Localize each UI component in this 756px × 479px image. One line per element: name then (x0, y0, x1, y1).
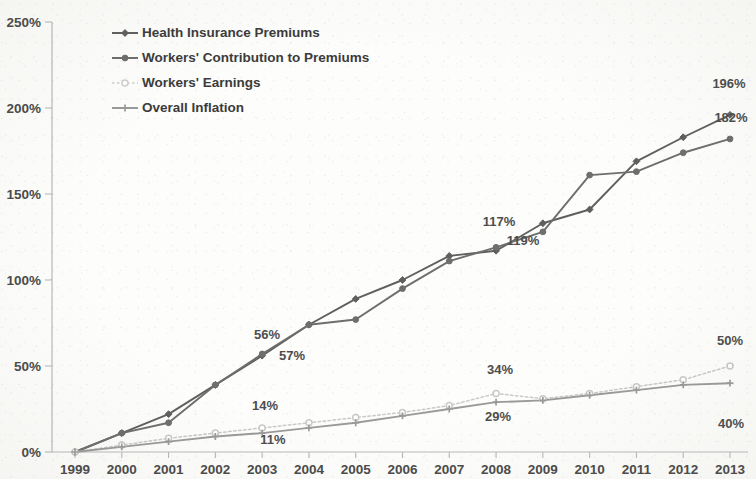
data-point-marker (446, 258, 452, 264)
data-point-marker (306, 322, 312, 328)
x-tick-label: 2001 (154, 462, 185, 477)
data-point-label: 34% (487, 362, 513, 377)
data-point-marker (122, 30, 129, 37)
data-point-marker (634, 169, 640, 175)
data-point-label: 50% (717, 333, 743, 348)
chart-container: 0%50%100%150%200%250% 199920002001200220… (0, 0, 756, 479)
data-point-marker (259, 351, 265, 357)
series-markers (72, 136, 733, 455)
x-tick-label: 2002 (200, 462, 230, 477)
y-tick-label: 250% (6, 15, 41, 30)
data-point-marker (727, 136, 733, 142)
x-tick-label: 2011 (622, 462, 652, 477)
data-point-marker (493, 244, 499, 250)
markers-layer (72, 111, 734, 455)
x-axis-tick-labels: 1999200020012002200320042005200620072008… (60, 462, 746, 477)
x-tick-label: 2006 (387, 462, 418, 477)
data-point-marker (680, 150, 686, 156)
data-point-marker (727, 363, 733, 369)
legend-item[interactable]: Overall Inflation (112, 100, 244, 115)
y-tick-label: 150% (6, 187, 41, 202)
legend-item[interactable]: Workers' Earnings (112, 75, 261, 90)
x-tick-label: 2007 (434, 462, 464, 477)
y-tick-label: 100% (6, 273, 41, 288)
data-point-marker (119, 430, 125, 436)
data-point-marker (399, 277, 406, 284)
x-tick-label: 2004 (294, 462, 325, 477)
data-point-marker (166, 420, 172, 426)
x-tick-label: 2010 (575, 462, 605, 477)
data-point-label: 56% (254, 327, 280, 342)
series-markers (72, 111, 734, 455)
data-point-label: 196% (712, 76, 746, 91)
y-axis-ticks (45, 22, 52, 452)
data-point-marker (122, 105, 129, 112)
x-tick-label: 2012 (668, 462, 698, 477)
data-point-marker (680, 134, 687, 141)
data-point-marker (540, 229, 546, 235)
data-point-marker (122, 80, 128, 86)
legend-item[interactable]: Workers' Contribution to Premiums (112, 50, 369, 65)
y-tick-label: 0% (21, 445, 41, 460)
legend-label: Workers' Earnings (142, 75, 261, 90)
legend-label: Health Insurance Premiums (142, 25, 320, 40)
line-chart: 0%50%100%150%200%250% 199920002001200220… (0, 0, 756, 479)
data-point-marker (400, 286, 406, 292)
x-tick-label: 2005 (341, 462, 372, 477)
x-axis-ticks (75, 452, 730, 458)
data-point-label: 14% (252, 398, 278, 413)
data-point-marker (587, 172, 593, 178)
x-tick-label: 2008 (481, 462, 512, 477)
data-point-label: 57% (279, 348, 305, 363)
x-tick-label: 2013 (715, 462, 746, 477)
y-axis-tick-labels: 0%50%100%150%200%250% (6, 15, 41, 460)
data-point-label: 40% (718, 416, 744, 431)
data-point-marker (212, 382, 218, 388)
y-tick-label: 200% (6, 101, 41, 116)
x-tick-label: 2003 (247, 462, 278, 477)
x-tick-label: 2009 (528, 462, 558, 477)
chart-legend: Health Insurance PremiumsWorkers' Contri… (112, 25, 369, 115)
x-tick-label: 1999 (60, 462, 90, 477)
legend-label: Workers' Contribution to Premiums (142, 50, 369, 65)
data-point-label: 117% (483, 214, 516, 229)
data-point-label: 29% (485, 409, 511, 424)
x-tick-label: 2000 (107, 462, 137, 477)
series-line (75, 139, 730, 452)
data-point-label: 182% (714, 110, 748, 125)
y-tick-label: 50% (14, 359, 41, 374)
data-point-marker (493, 399, 500, 406)
data-point-label: 119% (507, 233, 540, 248)
data-point-label: 11% (260, 432, 286, 447)
data-point-labels: 56%57%14%11%117%119%34%29%196%182%50%40% (252, 76, 748, 447)
data-point-marker (122, 55, 128, 61)
data-point-marker (353, 317, 359, 323)
legend-item[interactable]: Health Insurance Premiums (112, 25, 320, 40)
legend-label: Overall Inflation (142, 100, 244, 115)
data-point-marker (493, 391, 499, 397)
data-point-marker (727, 380, 734, 387)
